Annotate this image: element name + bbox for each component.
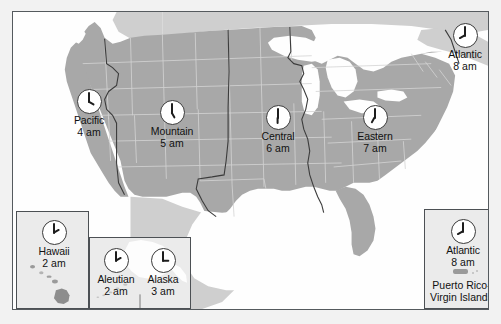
zone-time-central: 6 am xyxy=(241,143,315,155)
zone-marker-pacific[interactable]: Pacific 4 am xyxy=(52,89,126,138)
clock-pivot xyxy=(464,34,466,36)
clock-pivot xyxy=(374,116,376,118)
clock-pivot xyxy=(88,100,90,102)
clock-pivot xyxy=(115,259,117,261)
gulf-of-mexico-water xyxy=(184,201,363,290)
inset-puerto-rico[interactable]: Atlantic 8 am Puerto Rico- Virgin Island… xyxy=(424,209,489,309)
clock-atlantic xyxy=(453,23,478,48)
clock-pivot xyxy=(277,116,279,118)
zone-time-pacific: 4 am xyxy=(52,127,126,139)
zone-label-central: Central xyxy=(241,131,315,143)
inset-hawaii[interactable]: Hawaii 2 am xyxy=(16,211,89,309)
clock-pivot xyxy=(162,259,164,261)
puerto-rico-caption: Puerto Rico- Virgin Islands xyxy=(425,280,489,304)
map-canvas: Pacific 4 am Mountain 5 am Central xyxy=(13,12,488,309)
puerto-rico-shape xyxy=(453,269,468,274)
clock-pivot xyxy=(171,111,173,113)
island-molokai xyxy=(47,275,52,277)
island-hawaii-big xyxy=(54,288,70,304)
zone-label-mountain: Mountain xyxy=(135,126,209,138)
zone-label-hawaii: Hawaii xyxy=(17,246,89,258)
virgin-islands-dot xyxy=(472,272,474,274)
clock-pacific xyxy=(77,89,102,114)
zone-label-pacific: Pacific xyxy=(52,115,126,127)
zone-time-atlantic-inset: 8 am xyxy=(426,257,489,269)
clock-hawaii xyxy=(42,220,67,245)
zone-label-eastern: Eastern xyxy=(338,131,412,143)
zone-time-mountain: 5 am xyxy=(135,138,209,150)
clock-aleutian xyxy=(104,248,129,273)
zone-marker-alaska[interactable]: Alaska 3 am xyxy=(126,248,191,297)
zone-marker-atlantic[interactable]: Atlantic 8 am xyxy=(428,23,489,72)
clock-central xyxy=(266,105,291,130)
zone-marker-hawaii[interactable]: Hawaii 2 am xyxy=(17,220,89,269)
clock-mountain xyxy=(160,100,185,125)
zone-time-atlantic: 8 am xyxy=(428,61,489,73)
island-maui xyxy=(52,280,58,284)
zone-marker-central[interactable]: Central 6 am xyxy=(241,105,315,154)
zone-marker-atlantic-inset[interactable]: Atlantic 8 am xyxy=(426,219,489,268)
virgin-islands-dot xyxy=(476,270,478,272)
clock-pivot xyxy=(462,230,464,232)
map-frame: Pacific 4 am Mountain 5 am Central xyxy=(12,11,489,310)
zone-label-atlantic: Atlantic xyxy=(428,49,489,61)
zone-marker-eastern[interactable]: Eastern 7 am xyxy=(338,105,412,154)
time-zone-map-figure: Pacific 4 am Mountain 5 am Central xyxy=(0,0,501,324)
zone-label-atlantic-inset: Atlantic xyxy=(426,245,489,257)
clock-pivot xyxy=(53,231,55,233)
zone-label-alaska: Alaska xyxy=(126,274,191,286)
zone-time-eastern: 7 am xyxy=(338,143,412,155)
clock-atlantic-inset xyxy=(451,219,476,244)
zone-time-alaska: 3 am xyxy=(126,286,191,298)
island-oahu xyxy=(39,271,43,274)
puerto-rico-caption-line2: Virgin Islands xyxy=(425,292,489,304)
inset-alaska[interactable]: Aleutian 2 am Alaska 3 am xyxy=(89,237,191,309)
clock-eastern xyxy=(363,105,388,130)
clock-alaska xyxy=(151,248,176,273)
zone-marker-mountain[interactable]: Mountain 5 am xyxy=(135,100,209,149)
zone-time-hawaii: 2 am xyxy=(17,258,89,270)
